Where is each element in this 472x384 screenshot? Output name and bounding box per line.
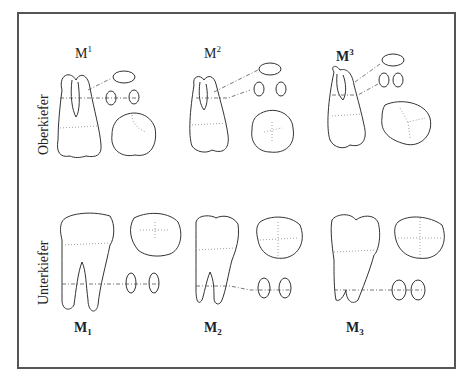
teeth-drawings (0, 0, 472, 384)
upper-m3-tooth-icon (328, 54, 431, 148)
lower-m1-tooth-icon (61, 213, 181, 311)
upper-m1-tooth-icon (58, 71, 156, 158)
lower-m2-tooth-icon (196, 216, 302, 304)
upper-m2-tooth-icon (190, 63, 294, 152)
lower-m3-tooth-icon (331, 215, 444, 303)
